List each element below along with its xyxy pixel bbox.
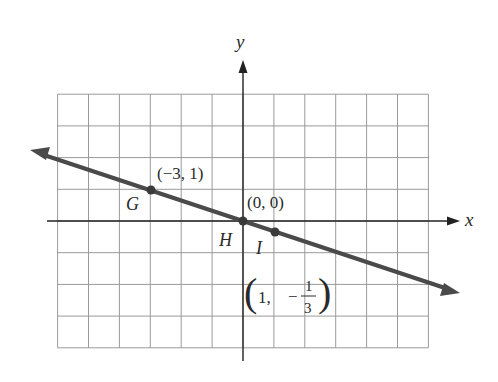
point-i-coordinates: ( 1, − 1 3 ) <box>244 270 331 316</box>
point-g <box>147 186 156 195</box>
y-axis-arrow-icon <box>239 60 248 73</box>
x-axis-label: x <box>464 209 474 230</box>
point-g-label: G <box>126 194 139 214</box>
point-h <box>239 217 248 226</box>
x-axis-arrow-icon <box>447 217 460 226</box>
fraction-denominator: 3 <box>304 300 312 316</box>
coordinate-plane: x y (−3, 1) G (0, 0) H I ( 1, − 1 3 ) <box>0 0 498 382</box>
paren-left: ( <box>244 270 257 315</box>
coord-minus: − <box>288 287 298 306</box>
point-g-coordinates: (−3, 1) <box>157 164 203 183</box>
point-i <box>271 228 280 237</box>
point-h-coordinates: (0, 0) <box>247 193 284 212</box>
point-i-label: I <box>255 238 263 258</box>
fraction-numerator: 1 <box>305 278 313 294</box>
paren-right: ) <box>318 270 331 315</box>
coord-prefix: 1, <box>258 288 271 307</box>
y-axis-label: y <box>234 31 245 52</box>
point-h-label: H <box>218 230 233 250</box>
line-arrow-right-icon <box>440 283 460 296</box>
